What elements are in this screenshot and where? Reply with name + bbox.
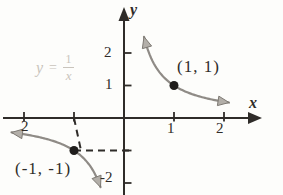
x-tick-label-1: 1 (167, 121, 175, 136)
reciprocal-function-graph: y = 1 x y x 2 1 2 2 1 -2 (1, 1) (-1, -1) (0, 0, 283, 195)
marked-point (170, 81, 179, 90)
x-axis-label: x (249, 95, 257, 111)
equation-label: y = 1 x (36, 53, 74, 82)
equation-lhs: y (36, 59, 43, 77)
equation-denominator: x (66, 69, 72, 83)
equation-equals: = (49, 60, 57, 76)
y-tick-label-neg2: -2 (100, 170, 113, 185)
y-axis-label: y (130, 2, 137, 18)
equation-numerator: 1 (66, 53, 72, 66)
y-axis-arrow-icon (119, 7, 130, 21)
curve-arrow-icon (217, 96, 229, 105)
y-tick-label-1: 1 (105, 77, 113, 92)
point-label-1-1: (1, 1) (177, 58, 220, 75)
curve-arrow-icon (142, 37, 151, 49)
marked-point (70, 146, 79, 155)
point-label-neg1-neg1: (-1, -1) (15, 160, 71, 177)
dashed-guide (74, 118, 81, 151)
x-axis-arrow-icon (248, 112, 262, 124)
equation-fraction: 1 x (63, 53, 74, 82)
y-tick-label-2: 2 (104, 45, 112, 60)
x-tick-label-neg2: 2 (21, 119, 29, 134)
x-tick-label-2: 2 (216, 121, 224, 136)
